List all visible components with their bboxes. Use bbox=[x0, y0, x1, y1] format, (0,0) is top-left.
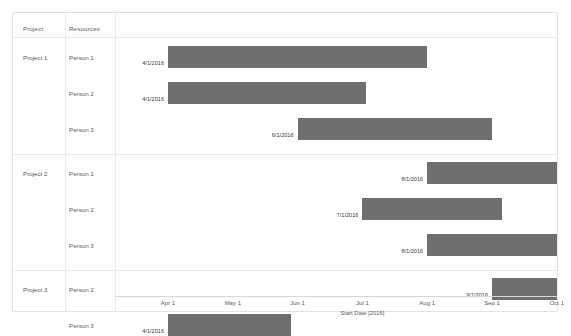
resource-label: Person 2 bbox=[69, 206, 94, 213]
bar-date-label: 7/1/2016 bbox=[300, 212, 358, 218]
resource-label: Person 1 bbox=[69, 170, 94, 177]
gantt-bar[interactable] bbox=[168, 314, 291, 336]
column-header-project: Project bbox=[23, 25, 43, 32]
project-label: Project 1 bbox=[23, 54, 47, 61]
column-header-resources: Resources bbox=[69, 25, 100, 32]
resource-label: Person 3 bbox=[69, 126, 94, 133]
gantt-bar[interactable] bbox=[362, 198, 501, 220]
x-tick-label: Jun 1 bbox=[290, 300, 305, 306]
x-tick-label: Aug 1 bbox=[419, 300, 435, 306]
x-tick-label: May 1 bbox=[225, 300, 241, 306]
x-tick-label: Jul 1 bbox=[356, 300, 369, 306]
gantt-bar[interactable] bbox=[427, 234, 557, 256]
resource-label: Person 3 bbox=[69, 322, 94, 329]
project-label: Project 3 bbox=[23, 286, 47, 293]
gantt-bar[interactable] bbox=[298, 118, 492, 140]
bar-date-label: 6/1/2016 bbox=[236, 132, 294, 138]
x-tick-label: Oct 1 bbox=[550, 300, 564, 306]
plot-area: 4/1/20164/1/20166/1/20168/1/20167/1/2016… bbox=[115, 38, 557, 311]
resource-label: Person 2 bbox=[69, 286, 94, 293]
gantt-bar[interactable] bbox=[427, 162, 557, 184]
x-axis-line bbox=[115, 296, 557, 297]
bar-date-label: 4/1/2016 bbox=[106, 60, 164, 66]
project-label: Project 2 bbox=[23, 170, 47, 177]
gantt-chart-card: Project Resources Project 1Person 1Perso… bbox=[12, 12, 558, 312]
bar-date-label: 8/1/2016 bbox=[365, 176, 423, 182]
column-divider-project bbox=[65, 13, 66, 311]
bar-date-label: 4/1/2016 bbox=[106, 328, 164, 334]
x-tick-label: Sep 1 bbox=[484, 300, 500, 306]
gantt-bar[interactable] bbox=[168, 82, 366, 104]
resource-label: Person 3 bbox=[69, 242, 94, 249]
gantt-bar[interactable] bbox=[168, 46, 427, 68]
bar-date-label: 9/1/2016 bbox=[430, 292, 488, 298]
bar-date-label: 4/1/2016 bbox=[106, 96, 164, 102]
resource-label: Person 1 bbox=[69, 54, 94, 61]
resource-label: Person 2 bbox=[69, 90, 94, 97]
x-axis-title: Start Date [2016] bbox=[340, 310, 384, 316]
x-tick-label: Apr 1 bbox=[161, 300, 175, 306]
bar-date-label: 8/1/2016 bbox=[365, 248, 423, 254]
